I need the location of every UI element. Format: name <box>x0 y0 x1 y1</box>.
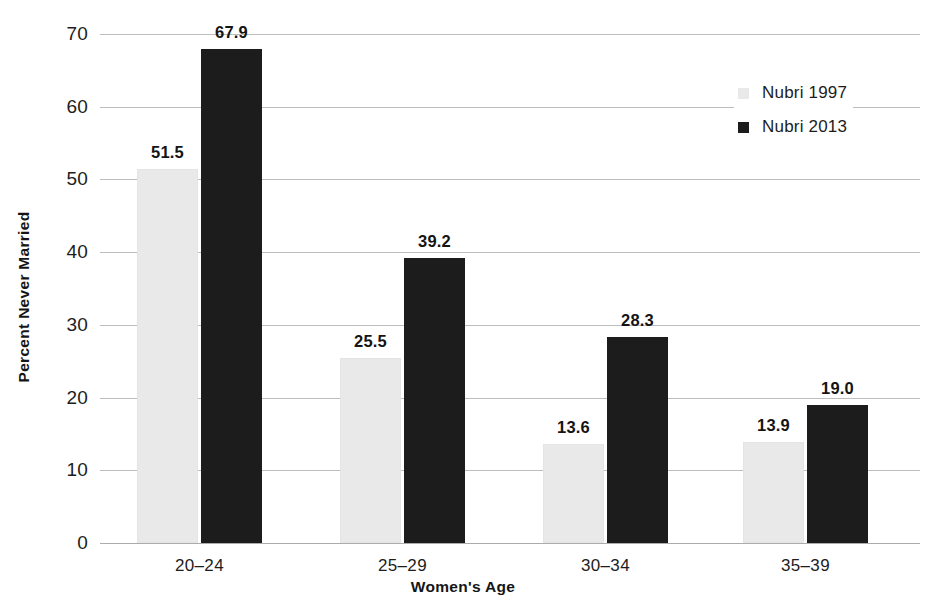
bar-value-label: 19.0 <box>821 379 854 398</box>
y-tick-label-60: 60 <box>28 96 88 118</box>
bar-value-label: 28.3 <box>621 311 654 330</box>
y-tick-label-30: 30 <box>28 314 88 336</box>
bar-value-label: 51.5 <box>151 143 184 162</box>
x-tick-label-20-24: 20–24 <box>175 556 224 576</box>
x-tick-label-30-34: 30–34 <box>581 556 630 576</box>
y-tick-label-50: 50 <box>28 168 88 190</box>
bar-value-label: 25.5 <box>354 332 387 351</box>
bar-35-39-nubri-1997 <box>743 442 804 543</box>
y-tick-label-10: 10 <box>28 459 88 481</box>
bar-20-24-nubri-2013 <box>201 49 262 543</box>
bar-35-39-nubri-2013 <box>807 405 868 543</box>
legend-swatch-1997 <box>738 88 749 99</box>
legend-label: Nubri 2013 <box>762 117 847 137</box>
bar-30-34-nubri-2013 <box>607 337 668 543</box>
bar-value-label: 39.2 <box>418 232 451 251</box>
bar-25-29-nubri-1997 <box>340 358 401 543</box>
y-tick-label-0: 0 <box>28 532 88 554</box>
bar-value-label: 13.9 <box>757 416 790 435</box>
legend-swatch-2013 <box>738 122 749 133</box>
y-axis-tick-labels: 010203040506070 <box>26 34 88 543</box>
bar-30-34-nubri-1997 <box>543 444 604 543</box>
y-tick-label-40: 40 <box>28 241 88 263</box>
y-tick-label-20: 20 <box>28 387 88 409</box>
x-axis-title: Women's Age <box>0 578 926 596</box>
bar-20-24-nubri-1997 <box>137 169 198 543</box>
legend: Nubri 1997Nubri 2013 <box>734 72 853 150</box>
gridline-0 <box>100 543 920 544</box>
legend-label: Nubri 1997 <box>762 83 847 103</box>
y-tick-label-70: 70 <box>28 23 88 45</box>
bar-25-29-nubri-2013 <box>404 258 465 543</box>
legend-item-nubri-2013: Nubri 2013 <box>738 110 847 144</box>
bar-value-label: 67.9 <box>215 23 248 42</box>
legend-item-nubri-1997: Nubri 1997 <box>738 76 847 110</box>
x-tick-label-35-39: 35–39 <box>781 556 830 576</box>
bar-chart: Percent Never Married 010203040506070 51… <box>0 0 926 600</box>
x-tick-label-25-29: 25–29 <box>378 556 427 576</box>
bar-value-label: 13.6 <box>557 418 590 437</box>
